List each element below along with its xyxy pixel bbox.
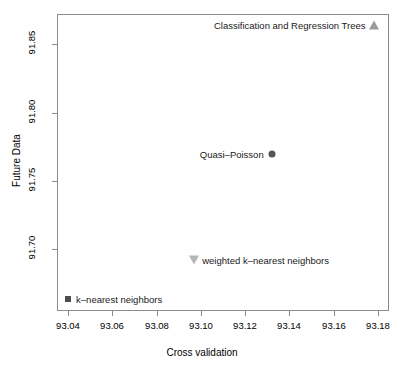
y-tick-mark (52, 249, 57, 250)
x-tick-mark (289, 311, 290, 316)
x-tick-mark (157, 311, 158, 316)
x-tick-label: 93.06 (100, 320, 124, 331)
y-tick-label: 91.85 (15, 37, 47, 48)
data-point-label: Quasi–Poisson (200, 148, 264, 159)
y-axis-title: Future Data (11, 91, 22, 231)
x-tick-label: 93.08 (145, 320, 169, 331)
data-point-marker[interactable] (65, 296, 71, 302)
data-point-marker[interactable] (268, 150, 275, 157)
data-point-label: k–nearest neighbors (76, 293, 162, 304)
data-point-marker[interactable] (369, 20, 379, 29)
x-tick-label: 93.04 (56, 320, 80, 331)
x-tick-label: 93.16 (322, 320, 346, 331)
data-point-label: weighted k–nearest neighbors (202, 255, 329, 266)
x-tick-mark (245, 311, 246, 316)
plot-frame (57, 14, 389, 311)
x-tick-label: 93.10 (189, 320, 213, 331)
x-tick-mark (112, 311, 113, 316)
x-tick-mark (201, 311, 202, 316)
y-tick-mark (52, 181, 57, 182)
data-point-marker[interactable] (189, 256, 199, 265)
scatter-plot-figure: 93.0493.0693.0893.1093.1293.1493.1693.18… (0, 0, 404, 370)
y-tick-label: 91.70 (15, 242, 47, 253)
x-tick-label: 93.14 (277, 320, 301, 331)
data-point-label: Classification and Regression Trees (214, 19, 366, 30)
x-tick-mark (378, 311, 379, 316)
x-tick-mark (334, 311, 335, 316)
x-tick-mark (68, 311, 69, 316)
x-tick-label: 93.18 (366, 320, 390, 331)
x-axis-title: Cross validation (0, 347, 404, 358)
x-tick-label: 93.12 (233, 320, 257, 331)
y-tick-mark (52, 44, 57, 45)
y-tick-mark (52, 113, 57, 114)
